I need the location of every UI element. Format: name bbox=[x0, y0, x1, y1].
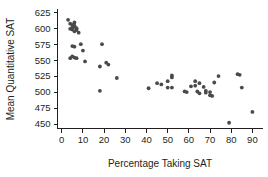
y-tick-label: 525 bbox=[35, 70, 51, 81]
y-tick-label: 575 bbox=[35, 39, 51, 50]
y-axis-ticks: 450475500525550575600625 bbox=[35, 7, 58, 130]
data-point bbox=[170, 86, 174, 90]
plot-area: 450475500525550575600625 010203040506070… bbox=[0, 0, 268, 177]
x-axis-title: Percentage Taking SAT bbox=[108, 158, 212, 169]
x-tick-label: 90 bbox=[247, 134, 258, 145]
data-point bbox=[83, 60, 87, 64]
x-tick-label: 60 bbox=[184, 134, 195, 145]
data-point bbox=[159, 83, 163, 87]
x-tick-label: 40 bbox=[141, 134, 152, 145]
data-point bbox=[68, 56, 72, 60]
data-point bbox=[170, 75, 174, 79]
data-point bbox=[100, 42, 104, 46]
data-point bbox=[202, 85, 206, 89]
data-point bbox=[166, 79, 170, 83]
y-axis-title: Mean Quantitative SAT bbox=[5, 18, 16, 121]
x-tick-label: 10 bbox=[78, 134, 89, 145]
data-point bbox=[155, 81, 159, 85]
data-point bbox=[115, 76, 119, 80]
data-point bbox=[251, 110, 255, 114]
y-tick-label: 550 bbox=[35, 55, 51, 66]
x-tick-label: 0 bbox=[59, 134, 64, 145]
y-tick-label: 625 bbox=[35, 7, 51, 18]
data-point bbox=[238, 73, 242, 77]
data-point bbox=[79, 42, 83, 46]
data-point bbox=[73, 29, 77, 33]
data-point bbox=[217, 74, 221, 78]
y-tick-label: 500 bbox=[35, 86, 51, 97]
data-point bbox=[81, 49, 85, 53]
data-point bbox=[75, 56, 79, 60]
data-point bbox=[68, 27, 72, 31]
data-point bbox=[73, 45, 77, 49]
data-point bbox=[166, 86, 170, 90]
x-tick-label: 70 bbox=[205, 134, 216, 145]
data-point bbox=[198, 91, 202, 95]
data-point bbox=[77, 31, 81, 35]
data-point bbox=[98, 89, 102, 93]
x-tick-label: 80 bbox=[226, 134, 237, 145]
data-point bbox=[106, 63, 110, 67]
data-point bbox=[198, 81, 202, 85]
data-points bbox=[66, 18, 254, 125]
data-point bbox=[204, 91, 208, 95]
axes bbox=[58, 9, 264, 129]
data-point bbox=[212, 81, 216, 85]
x-tick-label: 50 bbox=[162, 134, 173, 145]
scatter-chart: 450475500525550575600625 010203040506070… bbox=[0, 0, 268, 177]
data-point bbox=[66, 18, 70, 22]
y-tick-label: 450 bbox=[35, 118, 51, 129]
data-point bbox=[189, 84, 193, 88]
data-point bbox=[240, 86, 244, 90]
data-point bbox=[210, 94, 214, 98]
x-tick-label: 20 bbox=[99, 134, 110, 145]
x-axis-ticks: 0102030405060708090 bbox=[59, 129, 258, 145]
data-point bbox=[193, 84, 197, 88]
data-point bbox=[98, 65, 102, 69]
x-tick-label: 30 bbox=[120, 134, 131, 145]
data-point bbox=[227, 121, 231, 125]
y-tick-label: 600 bbox=[35, 23, 51, 34]
data-point bbox=[147, 86, 151, 90]
data-point bbox=[193, 79, 197, 83]
data-point bbox=[185, 90, 189, 94]
y-tick-label: 475 bbox=[35, 102, 51, 113]
